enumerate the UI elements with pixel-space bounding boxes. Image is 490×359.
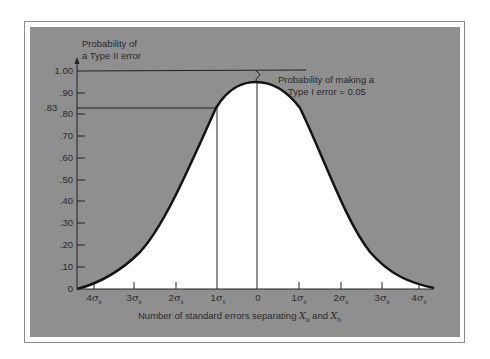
y-axis-label-line2: a Type II error bbox=[82, 50, 141, 61]
y-axis-label-line1: Probability of bbox=[82, 38, 137, 49]
x-tick-neg3: 3σx̄ bbox=[119, 292, 149, 305]
y-ticks bbox=[77, 93, 85, 267]
y-tick-0.70: .70 bbox=[43, 130, 73, 141]
y-tick-0.60: .60 bbox=[43, 152, 73, 163]
x-tick-pos4: 4σx̄ bbox=[404, 292, 434, 305]
x-tick-neg2: 2σx̄ bbox=[161, 292, 191, 305]
annotation-line1: Probability of making a bbox=[278, 74, 374, 85]
y-tick-1.00: 1.00 bbox=[43, 65, 73, 76]
line-1-00 bbox=[77, 70, 306, 71]
y-tick-0.40: .40 bbox=[43, 195, 73, 206]
curve-fill bbox=[77, 82, 434, 289]
x-tick-pos3: 3σx̄ bbox=[367, 292, 397, 305]
y-tick-0: 0 bbox=[43, 283, 73, 294]
y-tick-0.20: .20 bbox=[43, 239, 73, 250]
y-tick-0.10: .10 bbox=[43, 261, 73, 272]
x-tick-0: 0 bbox=[243, 292, 273, 303]
y-tick-0.90: .90 bbox=[43, 87, 73, 98]
x-tick-neg4: 4σx̄ bbox=[79, 292, 109, 305]
y-axis-arrow bbox=[75, 57, 80, 64]
annotation-line2: Type I error = 0.05 bbox=[288, 86, 366, 97]
x-tick-pos2: 2σx̄ bbox=[326, 292, 356, 305]
x-tick-neg1: 1σx̄ bbox=[203, 292, 233, 305]
x-axis-label: Number of standard errors separating Xu … bbox=[138, 310, 341, 325]
y-tick-0.80: .80 bbox=[43, 108, 73, 119]
y-tick-0.30: .30 bbox=[43, 217, 73, 228]
x-tick-pos1: 1σx̄ bbox=[284, 292, 314, 305]
y-tick-0.50: .50 bbox=[43, 174, 73, 185]
chart-svg bbox=[0, 0, 490, 359]
